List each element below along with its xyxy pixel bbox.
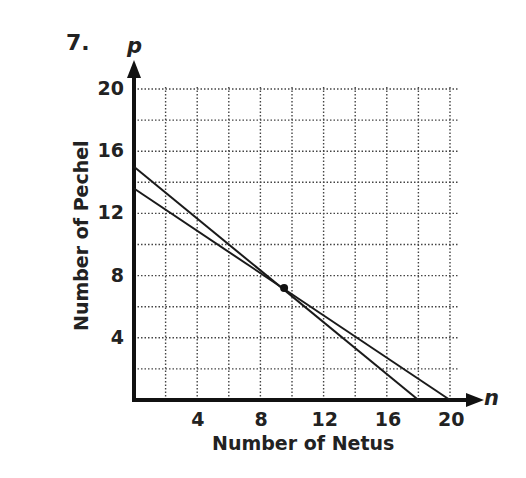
y-tick-label: 20 — [98, 77, 124, 99]
x-axis-title: Number of Netus — [212, 432, 394, 454]
x-tick-label: 4 — [191, 408, 204, 430]
y-tick-label: 16 — [98, 139, 124, 161]
x-tick-label: 16 — [375, 408, 401, 430]
x-tick-label: 12 — [312, 408, 338, 430]
x-variable-label: n — [484, 386, 499, 410]
y-axis-title: Number of Pechel — [70, 141, 92, 331]
x-axis-arrow-icon — [466, 393, 484, 407]
y-tick-label: 4 — [111, 326, 124, 348]
y-axis-arrow-icon — [127, 60, 141, 78]
y-variable-label: p — [127, 34, 142, 58]
x-tick-label: 20 — [438, 408, 464, 430]
x-tick-label: 8 — [254, 408, 267, 430]
y-tick-label: 8 — [111, 264, 124, 286]
intersection-point — [280, 284, 288, 292]
y-tick-label: 12 — [98, 201, 124, 223]
